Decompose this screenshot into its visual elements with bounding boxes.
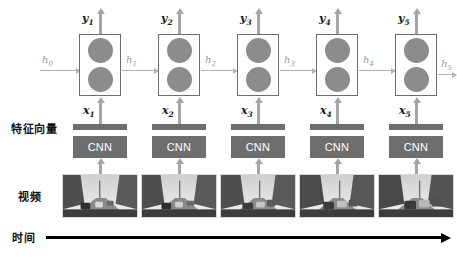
row-label-feature-vector: 特征向量: [11, 120, 57, 136]
input-label-x4: x4: [320, 104, 332, 119]
hidden-state-arrow-h1: [122, 70, 154, 71]
hidden-state-arrow-h5: [438, 74, 452, 75]
rnn-node-lower: [88, 67, 113, 92]
hidden-state-label-h5: h5: [441, 58, 452, 72]
output-label-y4: y4: [319, 12, 331, 27]
row-label-video: 视频: [18, 188, 41, 204]
video-frame-4: [299, 174, 375, 218]
time-axis-arrow: [46, 236, 442, 239]
video-frame-2: [141, 174, 217, 218]
hidden-state-label-h0: h0: [42, 54, 53, 68]
output-label-y1: y1: [82, 12, 94, 27]
rnn-cell-5: [395, 34, 437, 96]
input-label-x1: x1: [83, 104, 95, 119]
cnn-box-1: CNN: [73, 136, 127, 158]
cnn-box-5: CNN: [389, 136, 443, 158]
feature-vector-bar-4: [310, 124, 364, 130]
rnn-cell-3: [237, 34, 279, 96]
video-frame-5: [378, 174, 454, 218]
video-frame-image-1: [63, 175, 137, 217]
video-frame-3: [220, 174, 296, 218]
feature-vector-bar-2: [152, 124, 206, 130]
feature-vector-bar-1: [73, 124, 127, 130]
cnn-box-4: CNN: [310, 136, 364, 158]
hidden-state-arrow-h2: [201, 70, 233, 71]
cnn-label: CNN: [246, 141, 271, 153]
feature-vector-bar-5: [389, 124, 443, 130]
output-arrow-y1: [99, 13, 102, 34]
video-frame-1: [62, 174, 138, 218]
video-frame-image-4: [300, 175, 374, 217]
hidden-state-label-h4: h4: [363, 54, 374, 68]
video-frame-image-3: [221, 175, 295, 217]
output-arrow-y3: [257, 13, 260, 34]
cnn-box-3: CNN: [231, 136, 285, 158]
rnn-node-lower: [325, 67, 350, 92]
feature-vector-bar-3: [231, 124, 285, 130]
cnn-box-2: CNN: [152, 136, 206, 158]
rnn-node-upper: [167, 38, 192, 63]
hidden-state-arrow-h3: [280, 70, 312, 71]
hidden-state-arrow-h0: [40, 70, 76, 71]
rnn-cell-2: [158, 34, 200, 96]
rnn-node-lower: [404, 67, 429, 92]
hidden-state-label-h2: h2: [205, 54, 216, 68]
input-label-x3: x3: [241, 104, 253, 119]
output-label-y3: y3: [240, 12, 252, 27]
output-arrow-y4: [336, 13, 339, 34]
output-arrow-y2: [178, 13, 181, 34]
hidden-state-label-h1: h1: [126, 54, 137, 68]
rnn-node-upper: [88, 38, 113, 63]
row-label-time: 时间: [12, 229, 35, 245]
cnn-label: CNN: [167, 141, 192, 153]
video-frame-image-5: [379, 175, 453, 217]
output-arrow-y5: [415, 13, 418, 34]
input-label-x2: x2: [162, 104, 174, 119]
cnn-label: CNN: [404, 141, 429, 153]
rnn-node-upper: [404, 38, 429, 63]
rnn-node-lower: [167, 67, 192, 92]
output-label-y2: y2: [161, 12, 173, 27]
rnn-node-lower: [246, 67, 271, 92]
output-label-y5: y5: [398, 12, 410, 27]
rnn-node-upper: [325, 38, 350, 63]
hidden-state-arrow-h4: [359, 70, 391, 71]
video-frame-image-2: [142, 175, 216, 217]
rnn-node-upper: [246, 38, 271, 63]
rnn-cnn-video-diagram: 特征向量 视频 时间 y1 h0 x1 CNN: [0, 0, 457, 258]
rnn-cell-1: [79, 34, 121, 96]
rnn-cell-4: [316, 34, 358, 96]
cnn-label: CNN: [325, 141, 350, 153]
input-label-x5: x5: [399, 104, 411, 119]
cnn-label: CNN: [88, 141, 113, 153]
hidden-state-label-h3: h3: [284, 54, 295, 68]
